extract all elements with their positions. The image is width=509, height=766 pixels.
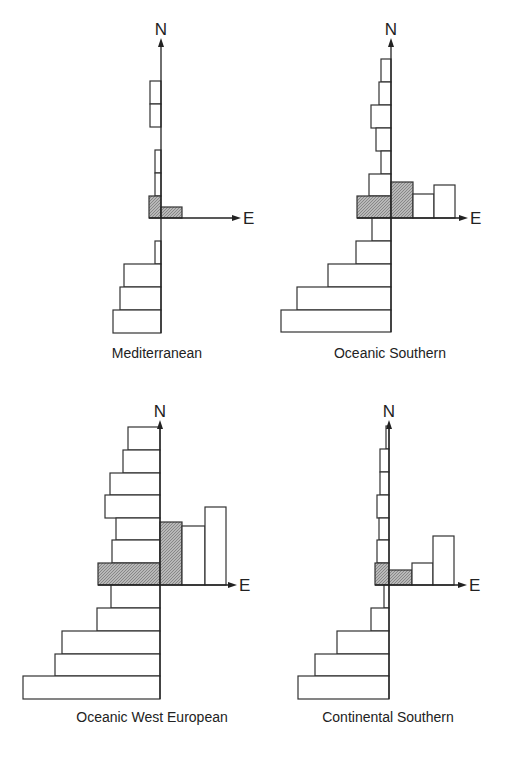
panel-oceanic-southern: NEOceanic Southern [281, 20, 481, 361]
calm-cell-west [357, 196, 391, 218]
frequency-bar-west [124, 264, 161, 287]
frequency-bar-west [150, 81, 161, 104]
east-label: E [239, 576, 250, 595]
north-label: N [385, 20, 397, 39]
frequency-bar-east [412, 563, 433, 585]
frequency-bar-west [120, 287, 161, 310]
frequency-bar-west [380, 449, 389, 472]
frequency-bar-west [380, 472, 389, 495]
north-label: N [383, 402, 395, 421]
panel-continental-southern: NEContinental Southern [298, 402, 480, 725]
calm-cell-west [375, 563, 389, 585]
frequency-bar-west [315, 654, 389, 676]
frequency-bar-west [377, 495, 389, 518]
frequency-bar-east [433, 536, 454, 585]
north-arrow-icon [158, 38, 164, 47]
panel-caption: Oceanic Southern [334, 345, 446, 361]
panel-caption: Oceanic West European [76, 709, 228, 725]
frequency-bar-west [128, 427, 160, 450]
frequency-bar-west [376, 128, 391, 151]
east-arrow-icon [458, 582, 467, 588]
frequency-bar-west [381, 151, 391, 174]
panel-oceanic-west-european: NEOceanic West European [23, 402, 250, 725]
frequency-bar-west [379, 82, 391, 105]
frequency-bar-west [113, 310, 161, 333]
frequency-bar-west [150, 104, 161, 127]
frequency-bar-west [337, 631, 389, 654]
frequency-bar-west [110, 473, 160, 495]
east-label: E [469, 576, 480, 595]
frequency-bar-west [155, 150, 161, 173]
calm-cell-east [389, 570, 412, 585]
frequency-bar-west [379, 518, 389, 540]
frequency-bar-west [371, 105, 391, 128]
frequency-bar-west [372, 218, 391, 241]
frequency-bar-west [112, 540, 160, 563]
north-arrow-icon [157, 420, 163, 429]
frequency-bar-west [155, 173, 161, 196]
calm-cell-west [149, 196, 161, 218]
frequency-bar-west [105, 495, 160, 518]
north-arrow-icon [386, 420, 392, 429]
frequency-bar-west [356, 241, 391, 264]
wind-rose-diagrams: NEMediterraneanNEOceanic SouthernNEOcean… [0, 0, 509, 766]
calm-cell-east [160, 522, 182, 585]
frequency-bar-west [55, 654, 160, 676]
frequency-bar-west [381, 59, 391, 82]
frequency-bar-west [155, 241, 161, 264]
frequency-bar-west [369, 174, 391, 196]
frequency-bar-east [413, 194, 434, 218]
frequency-bar-west [384, 585, 389, 608]
frequency-bar-west [97, 608, 160, 631]
calm-cell-east [391, 182, 413, 218]
panel-caption: Mediterranean [112, 345, 202, 361]
frequency-bar-west [116, 518, 160, 540]
frequency-bar-west [281, 310, 391, 332]
frequency-bar-west [123, 450, 160, 473]
north-label: N [155, 20, 167, 39]
frequency-bar-west [62, 631, 160, 654]
frequency-bar-west [298, 676, 389, 699]
calm-cell-east [161, 207, 182, 218]
frequency-bar-west [377, 540, 389, 563]
east-arrow-icon [228, 582, 237, 588]
east-arrow-icon [232, 215, 241, 221]
frequency-bar-west [297, 287, 391, 310]
east-arrow-icon [459, 215, 468, 221]
frequency-bar-east [434, 185, 455, 218]
east-label: E [243, 209, 254, 228]
panel-mediterranean: NEMediterranean [112, 20, 254, 361]
frequency-bar-east [182, 526, 205, 585]
frequency-bar-west [371, 608, 389, 631]
calm-cell-west [98, 563, 160, 585]
frequency-bar-west [111, 585, 160, 608]
north-label: N [154, 402, 166, 421]
east-label: E [470, 209, 481, 228]
frequency-bar-west [23, 676, 160, 699]
frequency-bar-west [328, 264, 391, 287]
panel-caption: Continental Southern [322, 709, 454, 725]
frequency-bar-east [205, 507, 226, 585]
north-arrow-icon [388, 38, 394, 47]
